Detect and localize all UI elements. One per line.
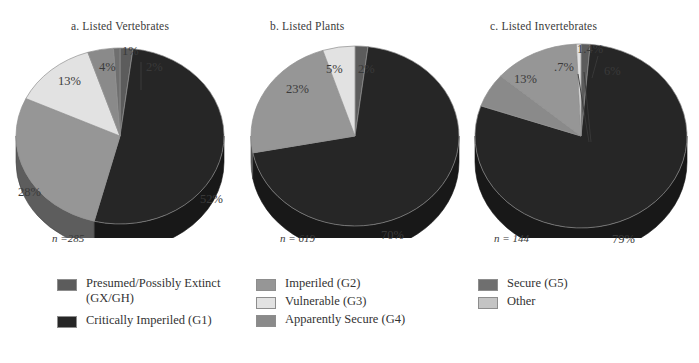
pie-chart-vertebrates bbox=[0, 38, 240, 253]
legend-item-g1[interactable]: Critically Imperiled (G1) bbox=[57, 313, 257, 328]
legend-item-other[interactable]: Other bbox=[478, 294, 658, 309]
leader-lines-c bbox=[562, 56, 606, 142]
callout-a-52pct: 52% bbox=[200, 192, 223, 207]
legend-swatch-other bbox=[478, 297, 498, 309]
legend-label-g2: Imperiled (G2) bbox=[285, 276, 360, 291]
legend-item-g4[interactable]: Apparently Secure (G4) bbox=[256, 312, 446, 327]
legend-swatch-gx-gh bbox=[57, 279, 77, 291]
legend-swatch-g1 bbox=[57, 316, 77, 328]
callout-b-23pct: 23% bbox=[286, 82, 309, 97]
callout-b-5pct: 5% bbox=[326, 62, 343, 77]
legend-item-gx-gh[interactable]: Presumed/Possibly Extinct (GX/GH) bbox=[57, 276, 257, 306]
panel-listed-invertebrates: c. Listed Invertebrates 1.4% .7% 6% 13% … bbox=[464, 0, 699, 270]
callout-a-2pct: 2% bbox=[146, 60, 163, 75]
callout-a-1pct: 1% bbox=[122, 44, 139, 59]
legend-swatch-g4 bbox=[256, 315, 276, 327]
panel-listed-plants: b. Listed Plants 5% 2% 23% 70% n = 619 bbox=[238, 0, 473, 270]
sample-size-a: n =285 bbox=[52, 232, 84, 244]
figure-listed-species-conservation-status: a. Listed Vertebrates 1% 2% 4% 13% 28% 5… bbox=[0, 0, 699, 363]
sample-size-b: n = 619 bbox=[280, 232, 315, 244]
legend-column-1: Presumed/Possibly Extinct (GX/GH) Critic… bbox=[57, 276, 257, 331]
callout-a-4pct: 4% bbox=[99, 60, 116, 75]
pie-chart-plants bbox=[238, 38, 473, 253]
legend-swatch-g3 bbox=[256, 297, 276, 309]
pie-svg-plants bbox=[238, 38, 473, 238]
panel-a-title: a. Listed Vertebrates bbox=[0, 20, 240, 32]
legend-column-3: Secure (G5) Other bbox=[478, 276, 658, 312]
legend-item-g5[interactable]: Secure (G5) bbox=[478, 276, 658, 291]
callout-a-28pct: 28% bbox=[18, 185, 41, 200]
callout-b-2pct: 2% bbox=[358, 62, 375, 77]
leader-line-a-1pct bbox=[139, 62, 143, 90]
pie-svg-vertebrates bbox=[0, 38, 240, 238]
legend-label-g5: Secure (G5) bbox=[507, 276, 568, 291]
legend-swatch-g2 bbox=[256, 279, 276, 291]
panel-c-title: c. Listed Invertebrates bbox=[490, 20, 699, 32]
callout-c-14pct: 1.4% bbox=[577, 42, 603, 57]
legend-label-g4: Apparently Secure (G4) bbox=[285, 312, 405, 327]
legend: Presumed/Possibly Extinct (GX/GH) Critic… bbox=[0, 276, 699, 356]
legend-swatch-g5 bbox=[478, 279, 498, 291]
callout-a-13pct: 13% bbox=[58, 74, 81, 89]
legend-label-g1: Critically Imperiled (G1) bbox=[86, 313, 212, 328]
callout-c-13pct: 13% bbox=[514, 72, 537, 87]
legend-item-g3[interactable]: Vulnerable (G3) bbox=[256, 294, 446, 309]
legend-item-g2[interactable]: Imperiled (G2) bbox=[256, 276, 446, 291]
sample-size-c: n = 144 bbox=[494, 232, 529, 244]
callout-b-70pct: 70% bbox=[381, 228, 404, 243]
legend-column-2: Imperiled (G2) Vulnerable (G3) Apparentl… bbox=[256, 276, 446, 330]
legend-label-other: Other bbox=[507, 294, 535, 309]
legend-label-gx-gh: Presumed/Possibly Extinct (GX/GH) bbox=[86, 276, 220, 306]
callout-c-6pct: 6% bbox=[604, 64, 621, 79]
panel-listed-vertebrates: a. Listed Vertebrates 1% 2% 4% 13% 28% 5… bbox=[0, 0, 240, 270]
callout-c-79pct: 79% bbox=[612, 232, 635, 247]
legend-label-g3: Vulnerable (G3) bbox=[285, 294, 367, 309]
